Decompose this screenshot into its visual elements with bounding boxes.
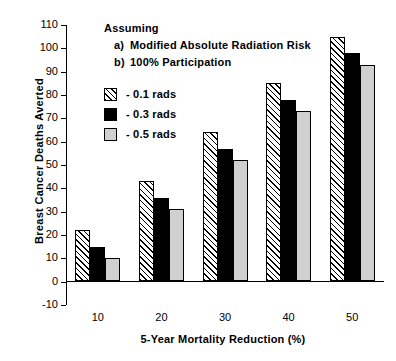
x-axis-tick-label: 10 [78,311,118,323]
bar [139,181,154,281]
bar [266,83,281,281]
x-axis-line [66,281,384,282]
y-axis-tick-label: 50 [28,158,58,170]
legend-swatch-icon-2 [104,128,117,141]
y-axis-tick: 40 [61,188,66,189]
bar [105,258,120,281]
bar [281,100,296,281]
bar [345,53,360,281]
y-axis-tick-label: 60 [28,135,58,147]
bar [360,65,375,281]
y-axis-tick-label: 80 [28,88,58,100]
legend-label-1: - 0.3 rads [126,108,176,120]
assumption-marker-a: a) [114,37,130,54]
bar [218,149,233,281]
x-axis-tick-label: 30 [205,311,245,323]
y-axis-tick-label: 100 [28,41,58,53]
legend-item-2: - 0.5 rads [104,124,176,144]
assumption-text-a: Modified Absolute Radiation Risk [130,39,311,51]
assumptions-heading: Assuming [104,20,311,37]
x-axis-tick-label: 40 [269,311,309,323]
x-axis-tick-label: 20 [141,311,181,323]
y-axis-tick: 80 [61,95,66,96]
legend-swatch-icon-0 [104,88,117,101]
assumption-marker-b: b) [114,54,130,71]
y-axis-tick: 90 [61,72,66,73]
y-axis-tick: -10 [61,305,66,306]
y-axis-tick-label: 70 [28,111,58,123]
x-axis-title: 5-Year Mortality Reduction (%) [58,333,388,345]
bar [330,37,345,281]
assumptions-annotation: Assuming a)Modified Absolute Radiation R… [104,20,311,71]
assumption-item-b: b)100% Participation [104,54,311,71]
legend-item-1: - 0.3 rads [104,104,176,124]
legend-item-0: - 0.1 rads [104,84,176,104]
y-axis-tick-label: 90 [28,65,58,77]
y-axis-tick: 50 [61,165,66,166]
bar [169,209,184,281]
y-axis-tick: 70 [61,118,66,119]
bar-chart-figure: Breast Cancer Deaths Averted 5-Year Mort… [0,0,396,361]
bar [90,247,105,281]
bar [233,160,248,281]
y-axis-tick-label: 20 [28,228,58,240]
legend-label-2: - 0.5 rads [126,128,176,140]
y-axis-tick-label: 0 [28,275,58,287]
y-axis-tick: 20 [61,235,66,236]
x-axis-tick-label: 50 [332,311,372,323]
chart-legend: - 0.1 rads - 0.3 rads - 0.5 rads [104,84,176,144]
y-axis-tick-label: 110 [28,18,58,30]
legend-swatch-icon-1 [104,108,117,121]
assumption-item-a: a)Modified Absolute Radiation Risk [104,37,311,54]
bar [203,132,218,281]
y-axis-tick-label: 40 [28,181,58,193]
y-axis-line [66,25,67,305]
y-axis-tick: 60 [61,142,66,143]
bar [296,111,311,281]
y-axis-tick-label: 10 [28,251,58,263]
legend-label-0: - 0.1 rads [126,88,176,100]
y-axis-tick: 10 [61,258,66,259]
y-axis-tick: 30 [61,212,66,213]
y-axis-tick: 110 [61,25,66,26]
y-axis-tick: 100 [61,48,66,49]
y-axis-tick-label: 30 [28,205,58,217]
y-axis-tick-label: -10 [28,298,58,310]
bar [154,198,169,281]
assumption-text-b: 100% Participation [130,56,231,68]
y-axis-tick: 0 [61,282,66,283]
bar [75,230,90,281]
